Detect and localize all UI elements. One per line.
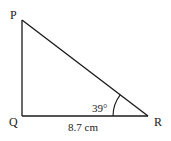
angle-label-R: 39° — [92, 102, 107, 114]
vertex-label-Q: Q — [9, 115, 18, 129]
vertex-label-P: P — [10, 8, 17, 22]
side-length-label-QR: 8.7 cm — [68, 121, 98, 133]
triangle-figure: P Q R 39° 8.7 cm — [0, 0, 171, 141]
angle-arc-R — [113, 95, 120, 116]
triangle-diagram: P Q R 39° 8.7 cm — [0, 0, 171, 141]
vertex-label-R: R — [154, 115, 162, 129]
side-PR-hypotenuse — [22, 20, 148, 116]
